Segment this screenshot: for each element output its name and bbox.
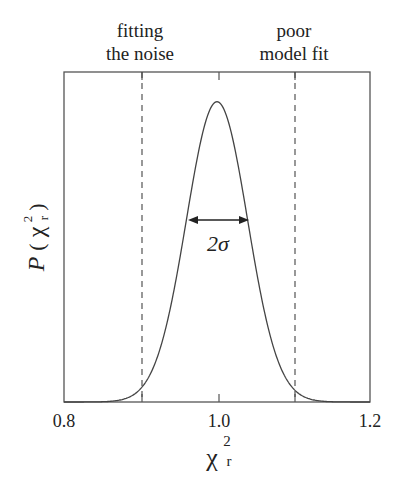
x-axis-subscript: r — [227, 453, 232, 469]
left-region-label-line1: fitting — [117, 20, 164, 41]
x-tick-label-1.2: 1.2 — [359, 411, 382, 431]
right-region-label-line2: model fit — [259, 43, 329, 64]
right-region-label-line1: poor — [277, 20, 313, 41]
sigma-annotation: 2σ — [207, 231, 230, 256]
x-tick-label-0.8: 0.8 — [53, 411, 76, 431]
y-axis-chi: χ — [23, 226, 49, 238]
y-axis-label: P ( χ 2 r ) — [20, 203, 51, 272]
x-axis-chi: χ — [205, 443, 218, 472]
x-axis-label: χ 2 r — [205, 433, 231, 472]
chart-canvas: 2σ fitting the noise poor model fit 0.8 … — [0, 0, 401, 504]
x-axis-superscript: 2 — [223, 433, 231, 449]
x-tick-label-1.0: 1.0 — [208, 411, 231, 431]
y-axis-superscript: 2 — [20, 216, 35, 223]
sigma-width-arrow — [188, 216, 249, 224]
y-axis-close-paren: ) — [24, 203, 49, 210]
left-region-label-line2: the noise — [106, 43, 174, 64]
y-axis-open-paren: ( — [24, 243, 49, 250]
y-axis-subscript: r — [36, 215, 51, 220]
y-axis-P: P — [23, 256, 49, 272]
